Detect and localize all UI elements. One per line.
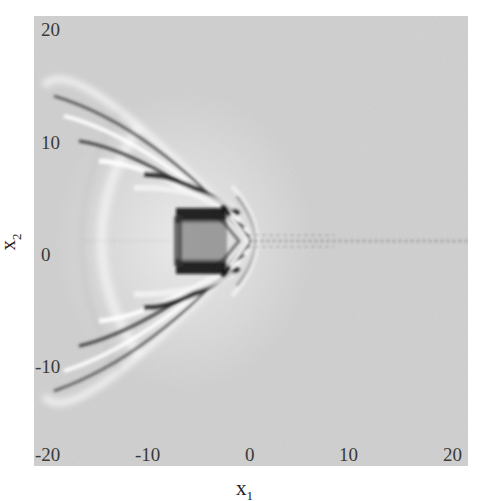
wave-field-image — [34, 16, 468, 466]
x-tick-minus-10: -10 — [135, 445, 160, 464]
y-tick-10: 10 — [41, 133, 60, 152]
y-tick-0: 0 — [41, 245, 51, 264]
x-tick-0: 0 — [245, 445, 255, 464]
y-tick-20: 20 — [41, 20, 60, 39]
y-tick-minus-10: -10 — [35, 357, 60, 376]
x-tick-minus-20: -20 — [35, 445, 60, 464]
x-tick-10: 10 — [339, 445, 358, 464]
y-axis-label: x2 — [0, 234, 25, 251]
x-axis-label: x1 — [236, 476, 253, 501]
x-tick-20: 20 — [443, 445, 462, 464]
